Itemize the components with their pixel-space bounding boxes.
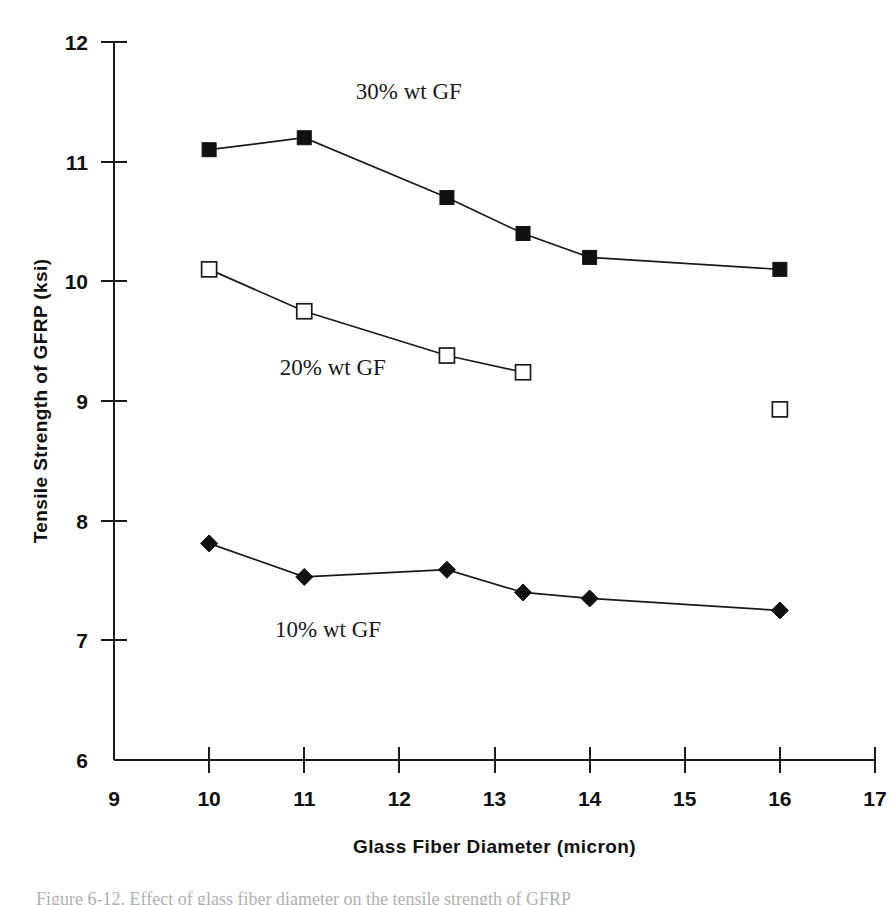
y-tick-label: 8 — [76, 510, 88, 533]
data-point-open-square — [516, 365, 531, 380]
data-point-filled-diamond — [771, 602, 788, 619]
series-annotation-label: 30% wt GF — [356, 79, 462, 104]
data-point-filled-square — [516, 226, 530, 240]
x-tick-label: 12 — [388, 787, 411, 810]
data-point-filled-square — [297, 131, 311, 145]
y-tick-label: 11 — [66, 151, 89, 174]
y-tick-label: 6 — [76, 749, 88, 772]
data-point-open-square — [202, 262, 217, 277]
series-polyline — [209, 543, 780, 610]
y-tick-label: 10 — [65, 270, 88, 293]
x-tick-label: 15 — [673, 787, 697, 810]
data-point-filled-square — [202, 143, 216, 157]
data-point-open-square — [439, 348, 454, 363]
x-axis-title: Glass Fiber Diameter (micron) — [353, 836, 636, 857]
axes — [114, 42, 875, 760]
data-point-open-square — [772, 402, 787, 417]
x-tick-label: 13 — [483, 787, 506, 810]
data-point-filled-diamond — [515, 584, 532, 601]
data-point-open-square — [297, 304, 312, 319]
line-chart: 6789101112 91011121314151617 30% wt GF20… — [0, 0, 891, 905]
series-10-wt-gf — [201, 535, 789, 619]
y-axis-ticks: 6789101112 — [65, 31, 127, 772]
data-point-filled-diamond — [581, 590, 598, 607]
y-tick-label: 12 — [65, 31, 88, 54]
x-tick-label: 16 — [768, 787, 791, 810]
x-axis-ticks: 91011121314151617 — [108, 747, 887, 810]
y-axis-title: Tensile Strength of GFRP (ksi) — [30, 259, 51, 544]
y-tick-label: 7 — [76, 629, 88, 652]
data-point-filled-square — [440, 191, 454, 205]
x-tick-label: 11 — [293, 787, 316, 810]
figure-container: 6789101112 91011121314151617 30% wt GF20… — [0, 0, 891, 905]
x-tick-label: 14 — [578, 787, 602, 810]
data-point-filled-square — [583, 250, 597, 264]
data-point-filled-square — [773, 262, 787, 276]
data-point-filled-diamond — [296, 568, 313, 585]
y-tick-label: 9 — [76, 390, 88, 413]
isolated-points-group — [772, 402, 787, 417]
series-30-wt-gf — [202, 131, 787, 277]
x-tick-label: 17 — [863, 787, 886, 810]
series-annotation-label: 20% wt GF — [280, 355, 386, 380]
data-point-filled-diamond — [438, 561, 455, 578]
series-annotation-label: 10% wt GF — [275, 617, 381, 642]
x-tick-label: 10 — [197, 787, 220, 810]
series-polyline — [209, 138, 780, 270]
x-tick-label: 9 — [108, 787, 120, 810]
data-point-filled-diamond — [201, 535, 218, 552]
figure-caption: Figure 6-12. Effect of glass fiber diame… — [36, 886, 856, 905]
